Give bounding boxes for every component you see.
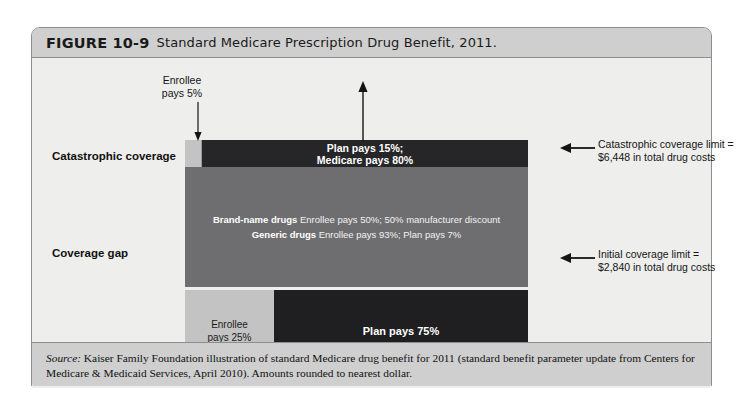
figure-number-label: FIGURE 10-9: [46, 35, 150, 51]
generic-drugs-detail: Enrollee pays 93%; Plan pays 7%: [316, 229, 461, 240]
initial-limit-line2: $2,840 in total drug costs: [598, 261, 715, 274]
figure-title-bar: FIGURE 10-9 Standard Medicare Prescripti…: [32, 28, 711, 58]
row-label-coverage-gap: Coverage gap: [52, 247, 128, 259]
coverage-gap-brand-line: Brand-name drugs Enrollee pays 50%; 50% …: [213, 212, 500, 227]
row-label-catastrophic-coverage: Catastrophic coverage: [52, 150, 176, 162]
callout-enrollee5-line2: pays 5%: [142, 87, 222, 100]
callout-enrollee-pays-5: Enrollee pays 5%: [142, 74, 222, 100]
catastrophic-limit-line1: Catastrophic coverage limit =: [598, 138, 734, 151]
source-label: Source:: [46, 352, 81, 364]
page-title: Standard Medicare Prescription Drug Bene…: [157, 35, 497, 50]
catastrophic-medicare-pays-line: Medicare pays 80%: [317, 154, 413, 167]
brand-name-drugs-label: Brand-name drugs: [213, 214, 297, 225]
callout-enrollee5-line1: Enrollee: [142, 74, 222, 87]
catastrophic-plan-pays-line: Plan pays 15%;: [327, 142, 403, 155]
initial-limit-line1: Initial coverage limit =: [598, 248, 715, 261]
down-arrow-icon: [193, 102, 203, 142]
bar-label-catastrophic: Plan pays 15%; Medicare pays 80%: [202, 141, 528, 167]
generic-drugs-label: Generic drugs: [252, 229, 316, 240]
catastrophic-limit-line2: $6,448 in total drug costs: [598, 151, 734, 164]
source-body: Kaiser Family Foundation illustration of…: [46, 352, 695, 379]
bar-segment-enrollee-pays-5: [185, 140, 202, 167]
figure-frame: FIGURE 10-9 Standard Medicare Prescripti…: [31, 27, 712, 387]
brand-name-drugs-detail: Enrollee pays 50%; 50% manufacturer disc…: [297, 214, 500, 225]
left-arrow-icon-initial-limit: [560, 251, 595, 265]
up-arrow-icon: [357, 81, 369, 141]
chart-canvas: Catastrophic coverage Coverage gap Initi…: [32, 59, 711, 388]
left-arrow-icon-catastrophic-limit: [560, 141, 595, 155]
coverage-gap-generic-line: Generic drugs Enrollee pays 93%; Plan pa…: [252, 227, 462, 242]
annotation-catastrophic-coverage-limit: Catastrophic coverage limit = $6,448 in …: [598, 138, 734, 164]
bar-label-coverage-gap: Brand-name drugs Enrollee pays 50%; 50% …: [185, 167, 528, 287]
source-footnote-bar: Source: Kaiser Family Foundation illustr…: [32, 342, 711, 386]
source-footnote: Source: Kaiser Family Foundation illustr…: [46, 351, 699, 380]
initial-enrollee-line1: Enrollee: [211, 318, 248, 331]
annotation-initial-coverage-limit: Initial coverage limit = $2,840 in total…: [598, 248, 715, 274]
